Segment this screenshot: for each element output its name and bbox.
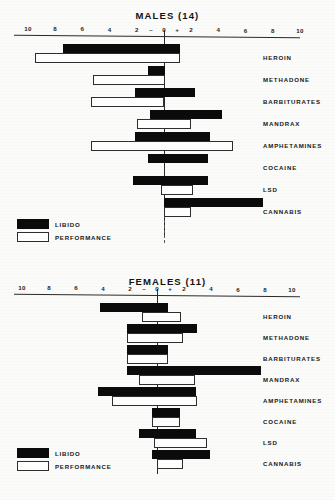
category-label: MANDRAX xyxy=(263,376,300,383)
bar-libido xyxy=(152,408,180,417)
bar-performance xyxy=(157,459,183,469)
category-label: AMPHETAMINES xyxy=(263,142,322,149)
axis-positive-sign: + xyxy=(165,285,175,292)
category-label: AMPHETAMINES xyxy=(263,397,322,404)
bar-libido xyxy=(139,429,196,438)
category-label: HEROIN xyxy=(263,313,292,320)
bar-libido xyxy=(127,324,197,333)
category-label: HEROIN xyxy=(263,54,292,61)
axis-tick-label: 6 xyxy=(68,284,84,291)
bar-libido xyxy=(127,345,168,354)
bar-libido xyxy=(63,44,180,53)
bar-performance xyxy=(154,438,207,448)
bar-performance xyxy=(35,53,181,63)
axis-negative-sign: – xyxy=(146,26,156,33)
bar-performance xyxy=(142,312,181,322)
category-label: COCAINE xyxy=(263,418,297,425)
bar-performance xyxy=(127,354,168,364)
axis-zero-line-extension xyxy=(164,215,166,243)
bar-libido xyxy=(150,110,222,119)
category-label: METHADONE xyxy=(263,76,310,83)
bar-libido xyxy=(152,450,210,459)
axis-tick-label: 10 xyxy=(284,286,300,293)
axis-tick-label: 8 xyxy=(257,286,273,293)
category-label: MANDRAX xyxy=(263,120,300,127)
category-label: COCAINE xyxy=(263,164,297,171)
bar-performance xyxy=(161,185,192,195)
legend-label-libido: LIBIDO xyxy=(55,221,80,228)
bar-libido xyxy=(133,176,208,185)
bar-libido xyxy=(148,66,166,75)
category-label: CANNABIS xyxy=(263,208,302,215)
bar-performance xyxy=(137,119,191,129)
axis-tick-label: 4 xyxy=(95,285,111,292)
category-label: LSD xyxy=(263,186,278,193)
axis-tick-label: 10 xyxy=(14,284,30,291)
bar-performance xyxy=(152,417,180,427)
legend-label-performance: PERFORMANCE xyxy=(55,234,112,241)
axis-tick-label: 2 xyxy=(122,285,138,292)
chart-panel-females: FEMALES (11) 1086420246810–+ HEROINMETHA… xyxy=(0,262,335,500)
chart-panel-males: MALES (14) 1086420246810–+ HEROINMETHADO… xyxy=(0,0,335,262)
axis-negative-sign: – xyxy=(139,285,149,292)
axis-positive-sign: + xyxy=(172,26,182,33)
axis-tick-label: 6 xyxy=(74,25,90,32)
legend-swatch-libido-icon xyxy=(17,219,49,229)
bar-performance xyxy=(91,141,234,151)
bar-performance xyxy=(93,75,165,85)
legend-label-libido: LIBIDO xyxy=(55,450,80,457)
axis-baseline xyxy=(14,35,300,39)
legend-swatch-performance-icon xyxy=(17,461,49,471)
bar-libido xyxy=(98,387,197,396)
axis-tick-label: 8 xyxy=(265,27,281,34)
axis-tick-label: 2 xyxy=(183,26,199,33)
chart-title-males: MALES (14) xyxy=(0,10,335,21)
legend-swatch-performance-icon xyxy=(17,232,49,242)
bar-libido xyxy=(127,366,261,375)
axis-tick-label: 2 xyxy=(176,285,192,292)
axis-tick-label: 4 xyxy=(210,26,226,33)
bar-libido xyxy=(135,88,195,97)
bar-performance xyxy=(112,396,197,406)
figure-canvas: MALES (14) 1086420246810–+ HEROINMETHADO… xyxy=(0,0,335,500)
axis-tick-label: 10 xyxy=(20,25,36,32)
bar-performance xyxy=(127,333,182,343)
bar-performance xyxy=(164,207,191,217)
axis-tick-label: 4 xyxy=(102,26,118,33)
axis-tick-label: 8 xyxy=(41,284,57,291)
bar-performance xyxy=(139,375,194,385)
bar-libido xyxy=(100,303,168,312)
bar-libido xyxy=(164,198,263,207)
axis-tick-label: 6 xyxy=(230,286,246,293)
category-label: LSD xyxy=(263,439,278,446)
axis-tick-label: 10 xyxy=(292,27,308,34)
bar-libido xyxy=(148,154,208,163)
legend-swatch-libido-icon xyxy=(17,448,49,458)
axis-tick-label: 8 xyxy=(47,25,63,32)
category-label: BARBITURATES xyxy=(263,355,321,362)
category-label: CANNABIS xyxy=(263,460,302,467)
category-label: BARBITURATES xyxy=(263,98,321,105)
bar-libido xyxy=(135,132,210,141)
category-label: METHADONE xyxy=(263,334,310,341)
axis-tick-label: 4 xyxy=(203,285,219,292)
legend-label-performance: PERFORMANCE xyxy=(55,463,112,470)
axis-tick-label: 6 xyxy=(238,27,254,34)
axis-tick-label: 2 xyxy=(129,26,145,33)
bar-performance xyxy=(91,97,164,107)
